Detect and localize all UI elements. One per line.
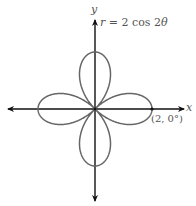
origin-point <box>94 108 97 111</box>
point-2-0 <box>150 107 153 110</box>
equation-theta: θ <box>161 16 168 29</box>
point-label: (2, 0°) <box>151 113 183 124</box>
x-axis-label: x <box>186 101 192 114</box>
equation-rest: = 2 cos 2 <box>105 16 161 29</box>
polar-graph <box>0 0 196 206</box>
equation-label: r = 2 cos 2θ <box>100 16 168 29</box>
y-axis-label: y <box>91 3 97 16</box>
